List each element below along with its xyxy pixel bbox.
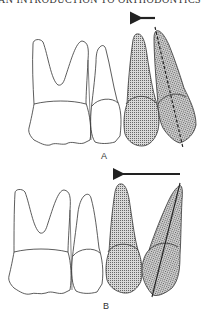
premolar-b bbox=[72, 194, 103, 293]
molar-a bbox=[29, 40, 91, 146]
figure-label-b: B bbox=[103, 301, 109, 311]
figure-b bbox=[9, 174, 183, 297]
shaded-premolar-a bbox=[124, 34, 159, 146]
figure-a bbox=[29, 18, 196, 148]
molar-b bbox=[9, 189, 71, 294]
premolar-a bbox=[91, 46, 121, 144]
tooth-diagrams bbox=[0, 0, 205, 323]
shaded-premolar-b bbox=[106, 184, 142, 293]
figure-label-a: A bbox=[101, 151, 107, 161]
tilted-premolar-b bbox=[142, 186, 182, 296]
